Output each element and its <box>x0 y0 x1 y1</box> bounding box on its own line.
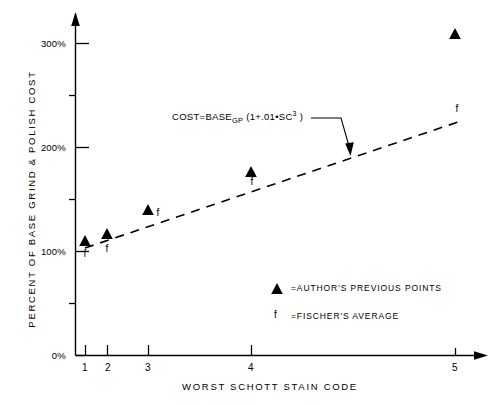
data-point-f-5: f <box>456 103 459 114</box>
x-axis-arrowhead <box>474 351 488 360</box>
data-point-triangle-3 <box>142 204 154 215</box>
data-point-f-2: f <box>106 243 109 254</box>
x-tick-label-2: 2 <box>105 362 111 373</box>
equation-lead: COST=BASE <box>172 111 232 122</box>
legend-f-icon: f <box>274 309 277 320</box>
equation-expression-open: (1+.01•SC <box>243 111 292 122</box>
data-point-f-3: f <box>157 207 160 218</box>
equation-annotation: COST=BASEGP (1+.01•SC3 ) <box>172 110 303 125</box>
x-tick-label-4: 4 <box>248 362 254 373</box>
y-tick-label-100: 100% <box>36 246 66 257</box>
legend-item-fischer-label: =FISCHER'S AVERAGE <box>291 311 399 321</box>
plot-canvas <box>0 0 497 405</box>
y-tick-label-300: 300% <box>36 38 66 49</box>
x-tick-label-1: 1 <box>82 362 88 373</box>
x-tick-label-5: 5 <box>452 362 458 373</box>
legend-item-author-label: =AUTHOR'S PREVIOUS POINTS <box>291 283 442 293</box>
trend-line-dashed <box>85 121 461 248</box>
x-tick-label-3: 3 <box>145 362 151 373</box>
y-tick-label-0: 0% <box>36 350 66 361</box>
y-axis-title: PERCENT OF BASE GRIND & POLISH COST <box>26 70 37 327</box>
equation-leader-arrowhead <box>345 142 354 156</box>
equation-expression-close: ) <box>297 111 303 122</box>
data-point-f-1: f <box>84 248 87 259</box>
data-point-triangle-2 <box>101 228 113 239</box>
x-axis-title: WORST SCHOTT STAIN CODE <box>182 381 358 392</box>
equation-leader-line <box>311 118 349 146</box>
y-axis-arrowhead <box>71 12 80 26</box>
legend-triangle-icon <box>271 283 283 294</box>
data-point-f-4: f <box>251 176 254 187</box>
data-point-triangle-5 <box>449 28 461 39</box>
y-tick-label-200: 200% <box>36 142 66 153</box>
chart-figure: 300% 200% 100% 0% 1 2 3 4 5 WORST SCHOTT… <box>0 0 497 405</box>
data-point-triangle-1 <box>79 235 91 246</box>
equation-subscript: GP <box>232 116 243 125</box>
